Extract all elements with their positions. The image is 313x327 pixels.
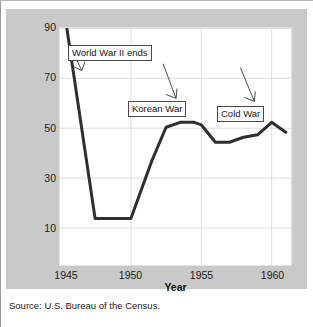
- y-tick-label: 10: [34, 223, 56, 233]
- vertical-gridlines: [131, 28, 272, 265]
- annotation-label-world-war-ii-ends: World War II ends: [68, 45, 152, 61]
- chart-panel: Appropriations (billions of 1975 dollars…: [6, 9, 307, 289]
- x-tick-label: 1960: [253, 269, 293, 281]
- figure-left-rule: [0, 0, 1, 327]
- annotation-label-cold-war: Cold War: [217, 106, 264, 122]
- figure-container: Appropriations (billions of 1975 dollars…: [0, 0, 313, 327]
- x-tick-label: 1945: [46, 269, 86, 281]
- annotation-label-korean-war: Korean War: [128, 101, 186, 117]
- y-tick-label: 30: [34, 173, 56, 183]
- x-axis-title: Year: [59, 281, 292, 293]
- leader-line-korean: [163, 64, 177, 99]
- leader-line-cold: [240, 68, 255, 102]
- y-tick-label: 90: [34, 22, 56, 32]
- figure-top-rule: [0, 0, 313, 1]
- source-note: Source: U.S. Bureau of the Census.: [9, 300, 160, 311]
- y-tick-label: 70: [34, 72, 56, 82]
- y-axis-tick-labels: 90 70 50 30 10: [28, 27, 56, 266]
- plot-area: [59, 27, 292, 266]
- y-tick-label: 50: [34, 123, 56, 133]
- chart-plot-svg: [60, 28, 291, 265]
- x-tick-label: 1950: [111, 269, 151, 281]
- x-tick-label: 1955: [182, 269, 222, 281]
